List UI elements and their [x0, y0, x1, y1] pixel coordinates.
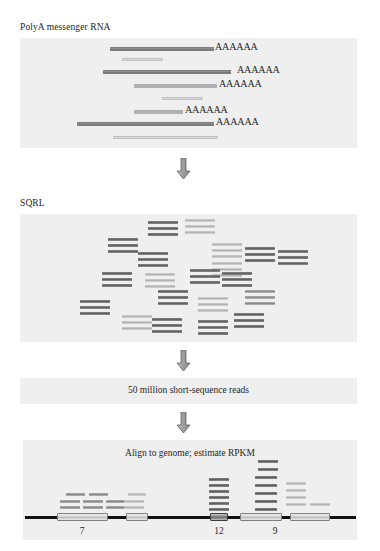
read-bar — [102, 284, 132, 287]
mrna-transcript — [77, 122, 214, 126]
aligned-read — [255, 476, 277, 479]
genome-axis-segment — [148, 516, 210, 519]
gene-exon — [240, 513, 282, 521]
read-cluster — [108, 238, 138, 256]
read-bar — [245, 259, 275, 262]
genome-axis-segment — [108, 516, 126, 519]
polya-tail-label: AAAAAA — [219, 78, 262, 89]
read-bar — [145, 279, 175, 282]
align-label: Align to genome; estimate RPKM — [23, 448, 357, 458]
read-bar — [102, 278, 132, 281]
read-bar — [145, 273, 175, 276]
aligned-read — [209, 502, 229, 505]
read-cluster — [122, 315, 152, 333]
read-bar — [108, 250, 138, 253]
gene-read-count: 9 — [265, 526, 285, 536]
gene-exon — [126, 513, 148, 521]
read-bar — [122, 327, 152, 330]
read-bar — [190, 275, 220, 278]
read-bar — [212, 249, 242, 252]
read-bar — [190, 269, 220, 272]
read-bar — [278, 262, 308, 265]
aligned-read — [286, 496, 306, 499]
read-bar — [245, 302, 275, 305]
aligned-read — [209, 490, 229, 493]
aligned-read — [310, 503, 330, 506]
read-bar — [212, 255, 242, 258]
read-bar — [152, 324, 182, 327]
mrna-transcript — [110, 47, 214, 51]
aligned-read — [255, 492, 277, 495]
read-cluster — [152, 318, 182, 336]
gene-exon — [290, 513, 330, 521]
read-bar — [80, 300, 110, 303]
reads-panel: 50 million short-sequence reads — [20, 378, 357, 404]
read-cluster — [158, 290, 188, 308]
read-bar — [148, 227, 178, 230]
aligned-read — [89, 493, 108, 496]
read-bar — [212, 243, 242, 246]
aligned-read — [255, 500, 277, 503]
gene-read-count: 7 — [72, 526, 92, 536]
read-bar — [185, 219, 215, 222]
gene-exon — [210, 513, 228, 521]
read-bar — [152, 330, 182, 333]
aligned-read — [209, 508, 229, 511]
genome-axis-segment — [25, 516, 57, 519]
sqrl-panel — [20, 214, 357, 342]
read-bar — [138, 258, 168, 261]
read-bar — [234, 325, 264, 328]
read-bar — [158, 290, 188, 293]
aligned-read — [286, 482, 306, 485]
read-cluster — [145, 273, 175, 291]
read-bar — [145, 285, 175, 288]
read-bar — [198, 320, 228, 323]
aligned-read — [60, 500, 80, 503]
read-bar — [198, 303, 228, 306]
read-bar — [198, 326, 228, 329]
arrow-polya-to-sqrl — [176, 158, 191, 180]
aligned-read — [209, 496, 229, 499]
aligned-read — [286, 489, 306, 492]
read-bar — [185, 225, 215, 228]
read-bar — [278, 256, 308, 259]
read-bar — [102, 272, 132, 275]
read-bar — [108, 244, 138, 247]
read-bar — [234, 313, 264, 316]
read-bar — [198, 332, 228, 335]
read-bar — [122, 321, 152, 324]
read-cluster — [198, 320, 228, 338]
read-cluster — [212, 243, 242, 261]
aligned-read — [106, 500, 126, 503]
read-bar — [148, 221, 178, 224]
aligned-read — [124, 506, 144, 509]
aligned-read — [83, 506, 103, 509]
read-cluster — [234, 313, 264, 331]
read-cluster — [278, 250, 308, 268]
read-bar — [152, 318, 182, 321]
aligned-read — [209, 484, 229, 487]
aligned-read — [106, 506, 126, 509]
aligned-read — [258, 468, 278, 471]
read-cluster — [190, 269, 220, 287]
read-bar — [222, 272, 252, 275]
mrna-transcript — [134, 110, 183, 114]
aligned-read — [209, 478, 229, 481]
read-bar — [138, 264, 168, 267]
gene-exon — [57, 513, 108, 521]
mrna-transcript — [113, 136, 218, 139]
mrna-transcript — [122, 58, 163, 61]
align-panel: Align to genome; estimate RPKM 7129 — [23, 440, 357, 540]
read-bar — [80, 306, 110, 309]
polya-tail-label: AAAAAA — [215, 41, 258, 52]
figure-rna-seq-workflow: { "figure": { "title": "RNA-seq workflow… — [0, 0, 380, 551]
polya-tail-label: AAAAAA — [216, 116, 259, 127]
read-cluster — [148, 221, 178, 239]
polya-panel: AAAAAAAAAAAAAAAAAAAAAAAAAAAAAA — [20, 38, 357, 148]
read-bar — [158, 296, 188, 299]
read-cluster — [102, 272, 132, 290]
reads-box-label: 50 million short-sequence reads — [20, 385, 357, 395]
read-bar — [190, 281, 220, 284]
read-bar — [108, 238, 138, 241]
read-bar — [138, 252, 168, 255]
